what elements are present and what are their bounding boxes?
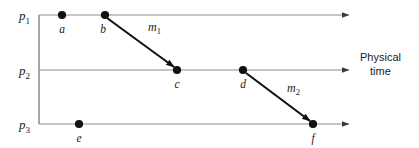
- event-dot-b: [101, 11, 109, 19]
- message-arrow-m2: [246, 73, 310, 121]
- event-label-b: b: [100, 23, 106, 35]
- process-label-p2: p2: [18, 63, 30, 81]
- diagram-canvas: p1 p2 p3 m1 m2 a b c d e f Physic: [0, 0, 419, 148]
- axis-caption-line2: time: [370, 65, 391, 77]
- message-arrow-m1: [107, 18, 174, 67]
- event-dot-a: [58, 11, 66, 19]
- message-label-m1: m1: [148, 20, 161, 36]
- event-dot-d: [239, 66, 247, 74]
- process-label-p1-subscript: 1: [26, 16, 31, 26]
- event-dot-c: [173, 66, 181, 74]
- space-time-diagram: p1 p2 p3 m1 m2 a b c d e f Physic: [0, 0, 419, 148]
- message-label-m1-base: m: [148, 20, 157, 34]
- process-label-p1: p1: [18, 8, 30, 26]
- process-label-p3: p3: [18, 117, 31, 135]
- message-label-m2-base: m: [287, 81, 296, 95]
- event-label-d: d: [240, 78, 246, 90]
- message-label-m2: m2: [287, 81, 300, 97]
- message-label-m2-subscript: 2: [296, 87, 300, 97]
- event-dot-e: [75, 120, 83, 128]
- process-label-p2-subscript: 2: [26, 71, 31, 81]
- event-dot-f: [309, 120, 317, 128]
- process-label-p3-subscript: 3: [26, 125, 31, 135]
- event-label-e: e: [76, 132, 81, 144]
- event-label-f: f: [311, 132, 316, 145]
- event-label-a: a: [59, 23, 65, 35]
- event-label-c: c: [174, 78, 179, 90]
- axis-caption-line1: Physical: [360, 51, 401, 63]
- message-label-m1-subscript: 1: [157, 26, 161, 36]
